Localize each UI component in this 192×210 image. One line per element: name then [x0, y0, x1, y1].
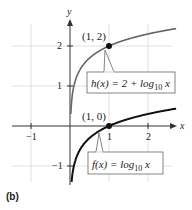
- callout-h: h(x) = 2 + log10 x: [87, 50, 175, 93]
- y-tick-2: 2: [57, 40, 62, 51]
- x-axis-label: x: [179, 120, 185, 131]
- point-h-1-2: [106, 43, 112, 49]
- y-axis-arrow-icon: [67, 19, 73, 26]
- x-tick-2: 2: [146, 131, 151, 142]
- x-axis-arrow-icon: [170, 123, 177, 129]
- x-tick-1: 1: [107, 131, 112, 142]
- point-f-1-0: [106, 123, 112, 129]
- x-tick-neg1: −1: [26, 131, 37, 142]
- y-tick-neg1: −1: [52, 160, 63, 171]
- y-tick-1: 1: [57, 80, 62, 91]
- y-axis: y 2 1 −1: [52, 6, 73, 185]
- callout-f: f(x) = log10 x: [88, 133, 163, 174]
- point-f-label: (1, 0): [82, 110, 106, 123]
- panel-label: (b): [6, 191, 19, 202]
- point-h-label: (1, 2): [82, 30, 106, 43]
- y-axis-label: y: [66, 6, 72, 17]
- log-graph: x −1 1 2 y 2 1 −1 (1, 2) (1, 0) h(x) = 2…: [0, 0, 192, 190]
